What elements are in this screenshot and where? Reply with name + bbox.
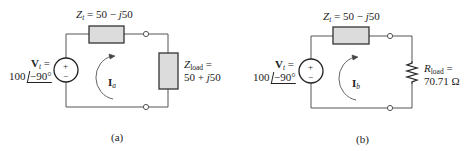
resistor-icon: [407, 61, 417, 84]
caption-b: (b): [356, 133, 369, 145]
circuit-a: [54, 26, 178, 110]
series-impedance-box: [89, 26, 124, 43]
caption-a: (a): [111, 131, 123, 143]
source-minus-b: −: [308, 71, 313, 83]
current-arrowhead-b-icon: [352, 55, 358, 60]
current-label-b: Ib: [352, 77, 360, 93]
load-impedance-box: [159, 53, 178, 89]
load-value-b: 70.71 Ω: [424, 75, 460, 87]
terminal-bottom-a: [143, 104, 148, 109]
source-value-a: 100 −90°: [9, 70, 53, 83]
terminal-top-b: [387, 33, 392, 38]
load-value-a: 50 + j50: [184, 71, 221, 83]
terminal-bottom-b: [387, 105, 392, 110]
terminal-top-a: [143, 31, 148, 36]
circuit-diagram: [0, 0, 467, 151]
series-impedance-box: [333, 27, 369, 44]
series-impedance-label-b: Zt = 50 − j50: [323, 10, 380, 26]
current-label-a: Ia: [108, 76, 116, 92]
source-value-b: 100 −90°: [253, 71, 297, 84]
source-minus-a: −: [63, 70, 68, 82]
circuit-b: [299, 27, 417, 111]
series-impedance-label-a: Zt = 50 − j50: [76, 8, 133, 24]
current-arrowhead-a-icon: [109, 54, 115, 59]
